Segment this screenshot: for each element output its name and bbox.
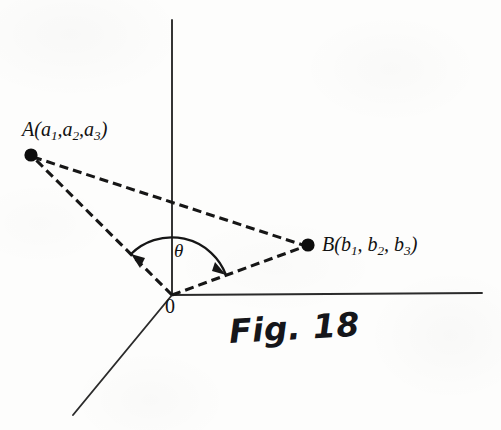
vector-segments	[33, 157, 306, 295]
point-b-dot	[301, 238, 314, 251]
point-a-close-paren: )	[101, 118, 108, 140]
point-a-coord3-subscript: 3	[94, 128, 101, 143]
origin-label: 0	[165, 296, 175, 316]
segment-ab	[33, 157, 306, 246]
point-b-coord1: b	[341, 233, 351, 255]
point-b-label: B(b1, b2, b3)	[322, 234, 417, 257]
figure-caption: Fig. 18	[228, 305, 361, 351]
point-a-open-paren: (	[34, 118, 41, 140]
horizontal-axis	[172, 293, 482, 295]
angle-theta-label: θ	[174, 241, 183, 260]
depth-axis	[73, 295, 172, 415]
segment-ob	[172, 246, 306, 295]
vector-diagram-canvas	[0, 0, 501, 430]
figure-container: A(a1,a2,a3) B(b1, b2, b3) θ 0 Fig. 18	[0, 0, 501, 430]
point-b-open-paren: (	[334, 233, 341, 255]
point-b-comma1: ,	[357, 233, 362, 255]
point-b-coord3-subscript: 3	[404, 243, 411, 258]
point-b-letter: B	[322, 233, 334, 255]
point-b-comma2: ,	[384, 233, 389, 255]
point-a-coord2: a	[62, 118, 72, 140]
point-a-coord3: a	[84, 118, 94, 140]
point-a-letter: A	[22, 118, 34, 140]
point-a-label: A(a1,a2,a3)	[22, 119, 107, 142]
coordinate-axes	[73, 20, 482, 415]
point-b-coord2: b	[367, 233, 377, 255]
point-b-coord3: b	[394, 233, 404, 255]
segment-oa	[33, 157, 172, 295]
angle-arrowhead-toward-a	[131, 254, 145, 268]
point-a-dot	[24, 148, 37, 161]
point-a-coord1: a	[41, 118, 51, 140]
point-b-close-paren: )	[411, 233, 418, 255]
